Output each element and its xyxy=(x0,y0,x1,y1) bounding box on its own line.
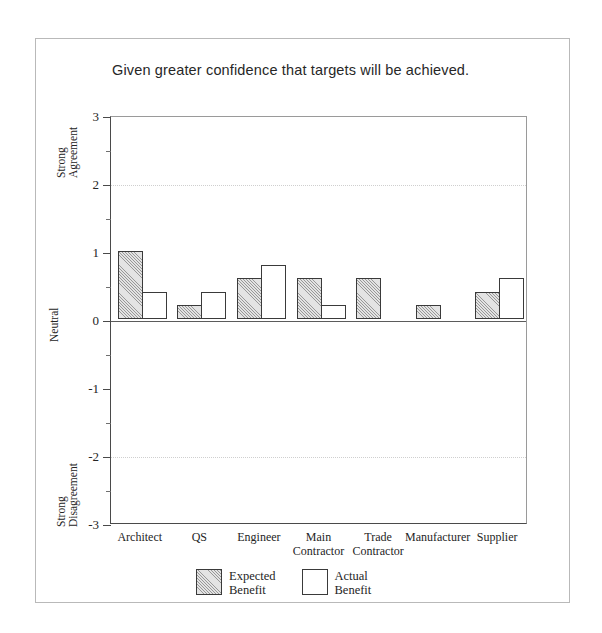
x-axis-tick-label-line: Contractor xyxy=(340,544,416,558)
y-axis-minor-tick xyxy=(106,355,111,356)
bar-group xyxy=(416,117,466,523)
y-axis-minor-tick xyxy=(106,423,111,424)
bar-expected-benefit xyxy=(177,305,202,319)
y-axis-scale-anchor-line: Strong xyxy=(55,463,67,527)
legend-label-line: Expected xyxy=(229,569,276,583)
bar-actual-benefit xyxy=(261,265,286,319)
legend-label: ExpectedBenefit xyxy=(229,569,276,598)
plot-area: 3210-1-2-3StrongAgreementNeutralStrongDi… xyxy=(110,116,527,524)
bar-group xyxy=(237,117,287,523)
y-axis-scale-anchor-line: Disagreement xyxy=(67,463,79,527)
y-axis-tick xyxy=(103,457,111,458)
y-axis-tick-label: 2 xyxy=(93,177,100,193)
y-axis-tick-label: -3 xyxy=(88,517,99,533)
bar-actual-benefit xyxy=(321,305,346,319)
y-axis-minor-tick xyxy=(106,491,111,492)
legend-swatch-actual-benefit xyxy=(302,569,328,595)
y-axis-minor-tick xyxy=(106,219,111,220)
y-axis-tick xyxy=(103,253,111,254)
chart-legend: ExpectedBenefitActualBenefit xyxy=(196,569,371,598)
bar-expected-benefit xyxy=(356,278,381,319)
x-axis-tick-label-line: Supplier xyxy=(459,530,535,544)
bar-group xyxy=(475,117,525,523)
y-axis-tick-label: 0 xyxy=(93,313,100,329)
y-axis-tick xyxy=(103,321,111,322)
bar-actual-benefit xyxy=(201,292,226,319)
bar-expected-benefit xyxy=(475,292,500,319)
legend-label-line: Actual xyxy=(335,569,372,583)
y-axis-tick xyxy=(103,185,111,186)
y-axis-tick-label: 1 xyxy=(93,245,100,261)
bar-expected-benefit xyxy=(416,305,441,319)
bar-group xyxy=(177,117,227,523)
bar-group xyxy=(118,117,168,523)
chart-title: Given greater confidence that targets wi… xyxy=(112,62,532,78)
legend-label-line: Benefit xyxy=(229,583,276,597)
y-axis-scale-anchor: Neutral xyxy=(48,308,60,342)
y-axis-tick xyxy=(103,117,111,118)
y-axis-scale-anchor: StrongDisagreement xyxy=(55,463,79,527)
legend-label-line: Benefit xyxy=(335,583,372,597)
legend-entry: ExpectedBenefit xyxy=(196,569,276,598)
y-axis-tick-label: -1 xyxy=(88,381,99,397)
y-axis-tick xyxy=(103,525,111,526)
bar-expected-benefit xyxy=(118,251,143,319)
y-axis-minor-tick xyxy=(106,287,111,288)
y-axis-tick-label: -2 xyxy=(88,449,99,465)
y-axis-scale-anchor: StrongAgreement xyxy=(55,127,79,178)
y-axis-tick-label: 3 xyxy=(93,109,100,125)
y-axis-scale-anchor-line: Agreement xyxy=(67,127,79,178)
x-axis-tick-label: Supplier xyxy=(459,530,535,544)
y-axis-minor-tick xyxy=(106,151,111,152)
y-axis-scale-anchor-line: Strong xyxy=(55,127,67,178)
y-axis-scale-anchor-line: Neutral xyxy=(48,308,60,342)
legend-label: ActualBenefit xyxy=(335,569,372,598)
y-axis-tick xyxy=(103,389,111,390)
bar-expected-benefit xyxy=(237,278,262,319)
bar-group xyxy=(356,117,406,523)
legend-swatch-expected-benefit xyxy=(196,569,222,595)
bar-expected-benefit xyxy=(297,278,322,319)
bar-group xyxy=(297,117,347,523)
bar-actual-benefit xyxy=(499,278,524,319)
bar-actual-benefit xyxy=(142,292,167,319)
legend-entry: ActualBenefit xyxy=(302,569,372,598)
